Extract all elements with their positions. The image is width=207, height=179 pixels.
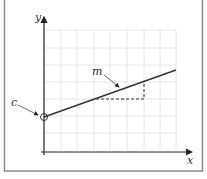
gradient-label: m <box>92 65 102 78</box>
x-axis-label: x <box>187 154 194 167</box>
intercept-arrow <box>18 105 38 115</box>
frame <box>5 0 203 171</box>
gradient-arrow <box>104 75 119 87</box>
diagram-canvas: y x m c <box>0 0 207 179</box>
y-axis-label: y <box>34 11 42 24</box>
grid <box>44 30 176 150</box>
intercept-label: c <box>11 96 17 109</box>
